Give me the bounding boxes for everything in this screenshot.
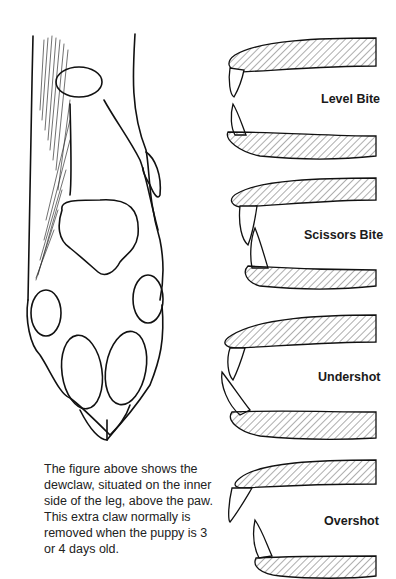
- lower-jaw: [255, 556, 376, 578]
- leg-left-outline: [28, 36, 33, 300]
- upper-tooth: [229, 68, 244, 97]
- paw-outline: [27, 300, 163, 435]
- toe-pad-3: [57, 333, 107, 412]
- lower-tooth: [254, 520, 272, 558]
- label-scissors-bite: Scissors Bite: [304, 228, 383, 242]
- dewclaw-caption: The figure above shows the dewclaw, situ…: [44, 461, 214, 557]
- lower-jaw: [227, 132, 376, 159]
- label-overshot: Overshot: [324, 514, 379, 528]
- upper-jaw: [235, 460, 376, 488]
- claw-left: [80, 410, 107, 440]
- upper-jaw: [225, 315, 376, 348]
- toe-pad-1: [31, 290, 61, 336]
- claw-right: [107, 405, 130, 440]
- lower-tooth: [222, 372, 250, 415]
- paw-illustration: [0, 0, 200, 470]
- carpal-pad: [56, 67, 102, 97]
- label-undershot: Undershot: [318, 370, 381, 384]
- metacarpal-pad: [59, 200, 138, 275]
- leg-right-outline: [133, 34, 163, 300]
- bite-diagrams: [200, 0, 396, 579]
- lower-jaw: [245, 266, 376, 289]
- dewclaw: [143, 152, 160, 197]
- upper-tooth: [228, 348, 245, 380]
- label-level-bite: Level Bite: [321, 92, 380, 106]
- toe-pad-4: [100, 328, 152, 408]
- lower-tooth: [231, 104, 246, 135]
- toe-pad-2: [133, 275, 163, 323]
- upper-tooth: [229, 488, 252, 522]
- lower-tooth: [251, 228, 268, 268]
- upper-jaw: [229, 38, 376, 72]
- lower-jaw: [230, 411, 376, 439]
- upper-jaw: [231, 178, 376, 207]
